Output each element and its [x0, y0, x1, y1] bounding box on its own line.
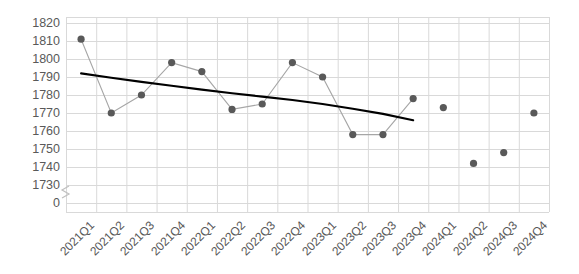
x-axis-tick-labels: 2021Q12021Q22021Q32021Q42022Q12022Q22022…	[0, 0, 579, 274]
chart-container: 1820181018001790178017701760175017401730…	[0, 0, 579, 274]
